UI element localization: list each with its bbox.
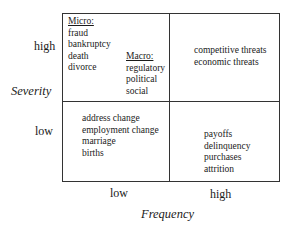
- macro-item: political: [126, 74, 165, 86]
- vertical-divider: [169, 14, 170, 181]
- ll-item: address change: [82, 113, 159, 125]
- micro-item: bankruptcy: [68, 39, 111, 51]
- lh-item: payoffs: [204, 129, 250, 141]
- quadrant-high-high: competitive threats economic threats: [194, 45, 267, 68]
- hh-item: competitive threats: [194, 45, 267, 57]
- micro-item: divorce: [68, 62, 111, 74]
- micro-item: death: [68, 51, 111, 63]
- x-tick-high: high: [210, 187, 231, 202]
- quadrant-low-high: payoffs delinquency purchases attrition: [204, 129, 250, 175]
- macro-item: social: [126, 86, 165, 98]
- macro-item: regulatory: [126, 63, 165, 75]
- ll-item: employment change: [82, 125, 159, 137]
- micro-header: Micro:: [68, 16, 111, 28]
- x-axis-title: Frequency: [141, 207, 194, 222]
- x-tick-low: low: [110, 186, 128, 201]
- quadrant-micro: Micro: fraud bankruptcy death divorce: [68, 16, 111, 74]
- quadrant-low-low: address change employment change marriag…: [82, 113, 159, 159]
- hh-item: economic threats: [194, 57, 267, 69]
- horizontal-divider: [63, 101, 279, 102]
- lh-item: delinquency: [204, 141, 250, 153]
- y-tick-low: low: [35, 124, 53, 139]
- y-axis-title: Severity: [11, 84, 51, 99]
- macro-header: Macro:: [126, 51, 165, 63]
- quadrant-macro: Macro: regulatory political social: [126, 51, 165, 97]
- y-tick-high: high: [34, 39, 55, 54]
- ll-item: births: [82, 148, 159, 160]
- lh-item: attrition: [204, 164, 250, 176]
- micro-item: fraud: [68, 28, 111, 40]
- ll-item: marriage: [82, 136, 159, 148]
- severity-frequency-matrix: Micro: fraud bankruptcy death divorce Ma…: [62, 13, 280, 182]
- lh-item: purchases: [204, 152, 250, 164]
